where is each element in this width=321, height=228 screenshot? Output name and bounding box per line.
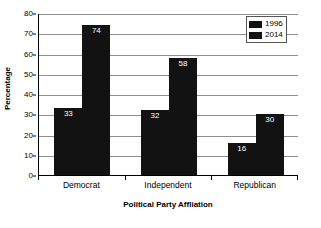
x-tick-mark	[125, 176, 126, 180]
y-tick-mark	[33, 74, 36, 75]
bar-value-label: 30	[265, 116, 274, 124]
x-category-label: Independent	[144, 181, 191, 190]
bar: 33	[54, 108, 82, 175]
bar: 30	[256, 114, 284, 175]
y-tick-mark	[33, 54, 36, 55]
x-axis-category-labels: DemocratIndependentRepublican	[38, 181, 298, 195]
y-axis-title-text: Percentage	[4, 66, 13, 109]
legend: 19962014	[246, 16, 287, 43]
y-tick-label: 50	[24, 71, 33, 79]
x-category-label: Republican	[233, 181, 276, 190]
y-tick-mark	[33, 155, 36, 156]
bar: 74	[82, 25, 110, 175]
y-tick-mark	[33, 34, 36, 35]
bar-value-label: 33	[64, 110, 73, 118]
legend-item: 1996	[249, 19, 283, 29]
y-tick-label: 10	[24, 152, 33, 160]
bar-chart: Percentage 01020304050607080 33743258163…	[0, 0, 321, 228]
y-tick-label: 70	[24, 30, 33, 38]
legend-label: 2014	[265, 31, 283, 39]
bar: 32	[141, 110, 169, 175]
y-tick-mark	[33, 14, 36, 15]
bar-group: 3258	[126, 14, 213, 175]
legend-item: 2014	[249, 30, 283, 40]
legend-swatch	[249, 32, 262, 39]
bar-value-label: 58	[179, 60, 188, 68]
x-category-label: Democrat	[63, 181, 100, 190]
y-tick-mark	[33, 176, 36, 177]
bar-value-label: 16	[237, 145, 246, 153]
bar: 16	[228, 143, 256, 175]
x-tick-mark	[297, 176, 298, 180]
bar: 58	[169, 58, 197, 175]
bar-group: 3374	[39, 14, 126, 175]
x-tick-mark	[211, 176, 212, 180]
y-tick-label: 60	[24, 51, 33, 59]
legend-label: 1996	[265, 20, 283, 28]
bar-value-label: 74	[92, 27, 101, 35]
y-tick-mark	[33, 95, 36, 96]
x-tick-mark	[38, 176, 39, 180]
y-tick-label: 30	[24, 111, 33, 119]
x-axis-title: Political Party Affliation	[38, 200, 298, 209]
bar-value-label: 32	[151, 112, 160, 120]
y-tick-label: 80	[24, 10, 33, 18]
y-tick-label: 40	[24, 91, 33, 99]
y-axis-ticks: 01020304050607080	[14, 14, 36, 176]
legend-swatch	[249, 21, 262, 28]
y-tick-mark	[33, 135, 36, 136]
y-tick-mark	[33, 115, 36, 116]
y-tick-label: 20	[24, 132, 33, 140]
